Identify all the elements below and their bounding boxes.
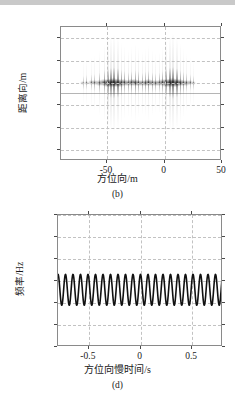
tick-x-top (164, 23, 165, 26)
caption-b: (b) (0, 190, 235, 200)
tick-x (221, 160, 222, 163)
tick-y-right (222, 236, 225, 237)
tick-y-right (221, 37, 224, 38)
tick-y (57, 149, 60, 150)
tick-y (54, 302, 57, 303)
tick-y (57, 60, 60, 61)
tick-y-right (222, 258, 225, 259)
tick-x-top (106, 23, 107, 26)
figure-d: 3002001000-100-200-300 -0.500.5 频率/Hz 方位… (0, 202, 235, 397)
tick-x (106, 160, 107, 163)
x-tick-label: -0.5 (68, 352, 108, 362)
tick-x (140, 346, 141, 349)
tick-x-top (191, 211, 192, 214)
tick-y-right (221, 127, 224, 128)
tick-y (57, 82, 60, 83)
tick-y (54, 214, 57, 215)
tick-y-right (221, 104, 224, 105)
target-halo (191, 81, 196, 85)
tick-y-right (221, 149, 224, 150)
x-axis-title-b: 方位向/m (0, 174, 235, 184)
x-axis-title-d: 方位向慢时间/s (0, 365, 235, 375)
tick-y (54, 324, 57, 325)
plot-frame-b (60, 26, 221, 160)
y-axis-title-b: 距离向/m (19, 63, 29, 123)
tick-y (54, 280, 57, 281)
tick-x (88, 346, 89, 349)
tick-y-right (221, 60, 224, 61)
tick-y (54, 346, 57, 347)
tick-y (54, 258, 57, 259)
tick-y-right (222, 324, 225, 325)
tick-y-right (222, 214, 225, 215)
x-tick-label: 0 (120, 352, 160, 362)
figure-b: 4 4604 4804 5004 5204 5404 560 -50050 距离… (0, 5, 235, 202)
tick-y (57, 127, 60, 128)
caption-d: (d) (0, 381, 235, 391)
sar-target-streaks (61, 27, 220, 159)
y-axis-title-d: 频率/Hz (16, 249, 26, 309)
tick-y-right (222, 346, 225, 347)
tick-y (54, 236, 57, 237)
tick-y (57, 37, 60, 38)
tick-x (164, 160, 165, 163)
tick-x-top (140, 211, 141, 214)
tick-y (57, 104, 60, 105)
frequency-waveform (58, 215, 222, 346)
tick-x (191, 346, 192, 349)
tick-y-right (222, 280, 225, 281)
tick-y-right (222, 302, 225, 303)
tick-y-right (221, 82, 224, 83)
tick-x-top (221, 23, 222, 26)
tick-x-top (88, 211, 89, 214)
x-tick-label: 0.5 (171, 352, 211, 362)
plot-frame-d (57, 214, 222, 346)
